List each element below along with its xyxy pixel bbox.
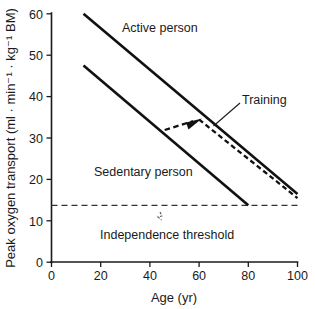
y-tick-label-40: 40 xyxy=(29,90,43,104)
x-tick-label-0: 0 xyxy=(48,269,55,283)
x-tick-labels: 0 20 40 60 80 100 xyxy=(48,269,308,283)
training-arrow-head xyxy=(186,118,202,129)
training-label: Training xyxy=(242,93,287,107)
training-leader-line xyxy=(214,103,241,126)
x-tick-label-20: 20 xyxy=(94,269,108,283)
y-tick-label-50: 50 xyxy=(29,49,43,63)
y-tick-label-60: 60 xyxy=(29,8,43,22)
x-tick-label-80: 80 xyxy=(241,269,255,283)
x-tick-label-60: 60 xyxy=(192,269,206,283)
y-tick-label-20: 20 xyxy=(29,173,43,187)
chart-canvas: 60 50 40 30 20 10 0 0 20 40 60 80 100 Ag… xyxy=(0,0,316,309)
training-arrow xyxy=(165,118,202,130)
x-axis-title: Age (yr) xyxy=(151,290,197,305)
axes-group xyxy=(51,13,298,263)
chart-figure: 60 50 40 30 20 10 0 0 20 40 60 80 100 Ag… xyxy=(0,0,316,309)
sedentary-person-label: Sedentary person xyxy=(94,165,193,179)
active-person-label: Active person xyxy=(122,21,198,35)
y-tick-labels: 60 50 40 30 20 10 0 xyxy=(29,8,43,270)
y-tick-label-30: 30 xyxy=(29,132,43,146)
y-axis-title: Peak oxygen transport (ml · min⁻¹ · kg⁻¹… xyxy=(3,8,18,268)
y-tick-label-10: 10 xyxy=(29,215,43,229)
threshold-squiggle-icon xyxy=(158,212,162,220)
sedentary-person-line xyxy=(84,66,249,206)
y-tick-label-0: 0 xyxy=(36,256,43,270)
x-tick-label-100: 100 xyxy=(287,269,308,283)
training-line xyxy=(199,120,297,199)
independence-threshold-label: Independence threshold xyxy=(100,228,234,242)
x-tick-label-40: 40 xyxy=(143,269,157,283)
